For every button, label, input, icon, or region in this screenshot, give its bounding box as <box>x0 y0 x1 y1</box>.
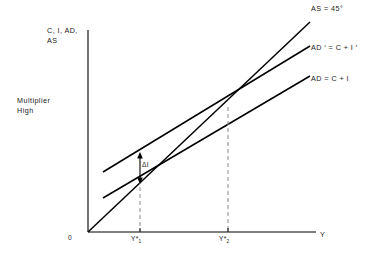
y-axis-caption: C, I, AD,AS <box>47 26 78 46</box>
multiplier-note: MultiplierHigh <box>17 96 50 116</box>
ad-prime-line <box>103 46 310 172</box>
y-axis-caption-line2: AS <box>47 36 58 45</box>
x-tick-label-y2-subscript: 2 <box>227 239 230 244</box>
x-tick-label-y2-base: Y* <box>219 235 227 242</box>
ad-prime-line-label: AD ′ = C + I ′ <box>311 43 358 53</box>
origin-label: 0 <box>68 233 72 243</box>
as-line-label: AS = 45° <box>311 4 343 14</box>
keynesian-cross-figure: C, I, AD,AS MultiplierHigh 0 Y AS = 45° … <box>0 0 385 262</box>
x-axis-label: Y <box>320 230 325 240</box>
x-tick-label-y1-subscript: 1 <box>139 239 142 244</box>
multiplier-note-line1: Multiplier <box>17 96 50 105</box>
y-axis-caption-line1: C, I, AD, <box>47 26 78 35</box>
as-45-degree-line <box>88 22 310 232</box>
ad-line-label: AD = C + I <box>311 74 349 84</box>
x-tick-label-y2: Y*2 <box>219 234 229 247</box>
delta-investment-label: ΔI <box>142 160 149 170</box>
x-tick-label-y1: Y*1 <box>131 234 141 247</box>
ad-line <box>103 76 310 198</box>
x-tick-label-y1-base: Y* <box>131 235 139 242</box>
multiplier-note-line2: High <box>17 106 34 115</box>
